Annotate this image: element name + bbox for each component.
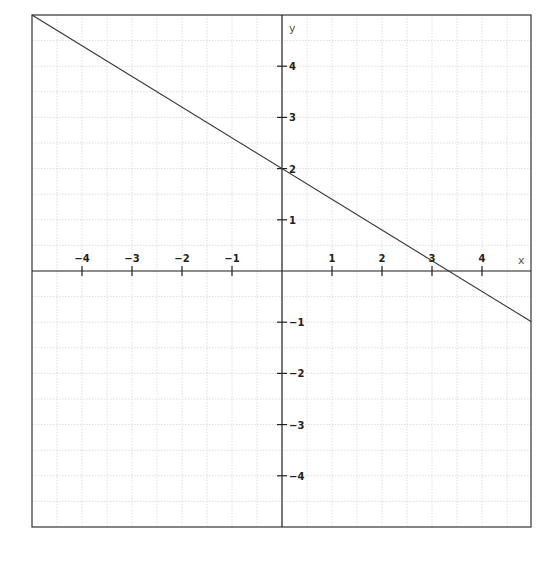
x-tick-label: 4	[479, 253, 486, 264]
y-tick-label: −4	[289, 471, 304, 482]
x-tick-label: −1	[224, 253, 239, 264]
y-tick-label: 1	[289, 215, 296, 226]
x-tick-label: 2	[379, 253, 386, 264]
y-axis-label: y	[289, 22, 296, 35]
x-axis-ticks: −4−3−2−11234	[74, 253, 485, 276]
x-tick-label: 1	[329, 253, 336, 264]
x-axis-label: x	[518, 254, 525, 267]
y-tick-label: 4	[289, 61, 296, 72]
x-tick-label: −3	[124, 253, 139, 264]
y-tick-label: −2	[289, 368, 304, 379]
y-tick-label: −1	[289, 317, 304, 328]
x-tick-label: −2	[174, 253, 189, 264]
y-tick-label: 3	[289, 112, 296, 123]
function-plot: −4−3−2−11234 −4−3−2−11234 x y	[0, 0, 547, 562]
y-tick-label: −3	[289, 420, 304, 431]
x-tick-label: −4	[74, 253, 89, 264]
